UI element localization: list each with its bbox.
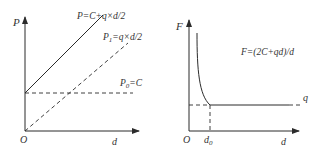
d0-marker-label: d0 — [204, 134, 213, 147]
right-origin-label: O — [183, 134, 190, 145]
right-x-axis-label: d — [281, 136, 287, 147]
q-asymptote-label: q — [303, 92, 308, 103]
left-y-axis-label: P — [12, 16, 20, 28]
left-x-axis-label: d — [112, 136, 118, 147]
p1-line-dashed — [25, 43, 128, 131]
f-curve-label: F=(2C+qd)/d — [240, 47, 294, 58]
left-diagram: P d O P=C+q×d/2 P1=q×d/2 P0=C — [12, 11, 143, 147]
f-curve — [197, 33, 210, 105]
d0-label-sub: 0 — [209, 139, 213, 147]
p0-label-rest: =C — [129, 78, 142, 88]
p1-label-rest: =q×d/2 — [112, 32, 142, 42]
p1-line-label: P1=q×d/2 — [102, 32, 142, 44]
left-origin-label: O — [20, 134, 27, 145]
right-diagram: F d O d0 F=(2C+qd)/d q — [175, 20, 308, 147]
total-line-solid — [25, 15, 103, 93]
right-y-axis-label: F — [175, 20, 183, 32]
total-line-label: P=C+q×d/2 — [76, 11, 126, 21]
diagram-canvas: P d O P=C+q×d/2 P1=q×d/2 P0=C F d O d0 F… — [0, 0, 315, 158]
p0-line-label: P0=C — [119, 78, 143, 90]
